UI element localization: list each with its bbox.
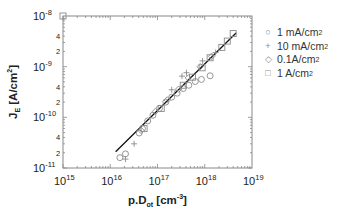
svg-text:1019: 1019 (243, 173, 264, 187)
legend-item-1a: □1 A/cm2 (262, 67, 328, 81)
svg-text:1018: 1018 (196, 173, 217, 187)
svg-text:10-9: 10-9 (33, 59, 52, 73)
x-axis-label: p.Dot [cm-3] (128, 193, 187, 208)
circle-marker-icon: ○ (262, 26, 274, 40)
plus-marker-icon: + (262, 40, 274, 54)
svg-text:10-8: 10-8 (33, 8, 52, 22)
data-points (60, 13, 236, 162)
svg-text:4: 4 (56, 133, 60, 142)
legend-item-10ma: +10 mA/cm2 (262, 40, 328, 54)
legend: ○1 mA/cm2 +10 mA/cm2 ◇0.1A/cm2 □1 A/cm2 (262, 26, 328, 80)
svg-text:4: 4 (56, 32, 60, 41)
y-axis-label: JE [A/cm2] (6, 65, 21, 119)
svg-text:2: 2 (56, 149, 60, 158)
square-marker-icon: □ (262, 67, 274, 81)
svg-text:2: 2 (56, 98, 60, 107)
svg-text:10-10: 10-10 (33, 109, 56, 123)
svg-text:1015: 1015 (54, 173, 75, 187)
diamond-marker-icon: ◇ (262, 53, 274, 67)
svg-text:1017: 1017 (149, 173, 170, 187)
plot-frame (63, 16, 252, 168)
svg-text:1016: 1016 (101, 173, 122, 187)
fit-line (116, 33, 236, 152)
svg-text:10-11: 10-11 (33, 160, 56, 174)
tick-labels: 1015101610171018101910-1110-1010-910-824… (33, 8, 264, 187)
legend-item-1ma: ○1 mA/cm2 (262, 26, 328, 40)
svg-text:2: 2 (56, 47, 60, 56)
svg-text:4: 4 (56, 83, 60, 92)
legend-item-0p1a: ◇0.1A/cm2 (262, 53, 328, 67)
axis-ticks (63, 16, 252, 168)
